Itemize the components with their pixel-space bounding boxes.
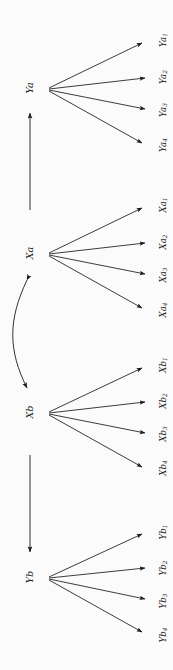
measurement-arrows-yb [49,534,145,632]
measurement-arrows-xb [49,368,145,467]
node-label-xb: Xb [24,406,35,419]
leaf-label-xa-3: Xa3 [158,268,169,283]
leaf-label-ya-1: Ya1 [158,33,169,47]
leaf-label-xa-1: Xa1 [158,198,169,213]
correlation-arrow-xa-xb [13,280,27,388]
leaf-label-xb-1: Xb1 [158,357,169,372]
leaf-label-xa-2: Xa2 [158,235,169,250]
leaf-label-xb-2: Xb2 [158,393,169,408]
leaf-label-yb-3: Yb3 [158,594,169,609]
leaf-label-ya-2: Ya2 [158,70,169,84]
leaf-label-xb-3: Xb3 [158,426,169,441]
leaf-label-ya-4: Ya4 [158,138,169,152]
node-label-yb: Yb [24,571,35,583]
leaf-label-xa-4: Xa4 [158,303,169,318]
path-diagram-svg [0,0,173,670]
leaf-label-yb-2: Yb2 [158,561,169,576]
leaf-label-xb-4: Xb4 [158,460,169,475]
node-label-ya: Ya [24,82,35,93]
leaf-label-yb-4: Yb4 [158,628,169,643]
leaf-label-ya-3: Ya3 [158,103,169,117]
measurement-arrows-ya [49,43,145,143]
leaf-label-yb-1: Yb1 [158,525,169,540]
measurement-arrows-xa [49,208,145,308]
diagram-canvas: Ya Xa Xb Yb Ya1 Ya2 Ya3 Ya4 Xa1 Xa2 Xa3 … [0,0,173,670]
node-label-xa: Xa [24,247,35,259]
